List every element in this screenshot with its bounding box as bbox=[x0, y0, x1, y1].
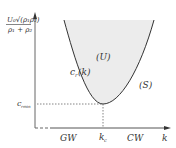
svg-text:c: c bbox=[104, 137, 107, 143]
stable-region-label: (S) bbox=[139, 80, 153, 90]
unstable-region-fill bbox=[64, 20, 154, 104]
svg-text:(k): (k) bbox=[78, 67, 91, 77]
unstable-region-label: (U) bbox=[96, 52, 111, 62]
kc-label: k c bbox=[99, 132, 107, 143]
min-label: c rmin bbox=[17, 99, 31, 109]
svg-text:U₀√(ρ₁ρ₂): U₀√(ρ₁ρ₂) bbox=[7, 16, 40, 24]
svg-text:rmin: rmin bbox=[21, 104, 31, 109]
x-axis-arrow-icon bbox=[164, 126, 171, 130]
cw-label: CW bbox=[127, 133, 144, 143]
dispersion-diagram: U₀√(ρ₁ρ₂) ρ₁ + ρ₂ (U) (S) c r (k) c rmin… bbox=[0, 0, 176, 148]
x-axis-label: k bbox=[162, 133, 167, 143]
gw-label: GW bbox=[60, 133, 77, 143]
svg-text:ρ₁ + ρ₂: ρ₁ + ρ₂ bbox=[7, 26, 32, 34]
curve-label: c r (k) bbox=[70, 67, 91, 78]
